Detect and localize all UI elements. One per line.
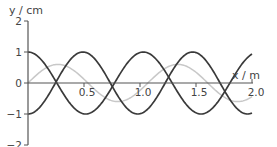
- x-tick-label-0-5: 0.5: [79, 86, 96, 98]
- y-tick-label-neg2: −2: [7, 139, 22, 147]
- y-tick-label-0: 0: [15, 77, 22, 89]
- y-tick-label-1: 1: [15, 46, 22, 58]
- y-axis-title: y / cm: [9, 4, 43, 17]
- x-tick-label-2-0: 2.0: [248, 86, 265, 98]
- wave-chart: 2 1 0 −1 −2 0.5 1.0 1.5 2.0 y / cm x / m: [0, 0, 277, 147]
- y-tick-label-neg1: −1: [7, 108, 22, 120]
- x-tick-label-1-5: 1.5: [191, 86, 208, 98]
- x-axis-title: x / m: [232, 69, 260, 82]
- x-tick-label-1-0: 1.0: [135, 86, 152, 98]
